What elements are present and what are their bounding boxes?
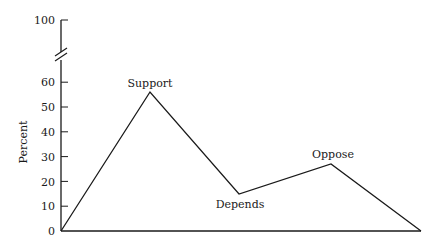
point-label-support: Support xyxy=(127,77,173,90)
y-tick-label-20: 20 xyxy=(41,176,55,189)
point-label-depends: Depends xyxy=(216,198,265,211)
y-tick-label-60: 60 xyxy=(41,76,55,89)
y-tick-label-100: 100 xyxy=(34,14,55,27)
y-tick-label-40: 40 xyxy=(41,126,55,139)
chart-canvas: 0 10 20 30 40 50 60 100 Percent Support … xyxy=(0,0,443,245)
y-tick-label-30: 30 xyxy=(41,151,55,164)
y-tick-label-0: 0 xyxy=(48,225,55,238)
point-label-oppose: Oppose xyxy=(312,148,354,161)
y-tick-label-50: 50 xyxy=(41,101,55,114)
y-tick-label-10: 10 xyxy=(41,200,55,213)
y-axis-title: Percent xyxy=(17,120,30,163)
